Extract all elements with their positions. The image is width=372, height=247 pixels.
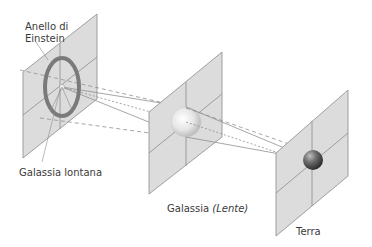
einstein-ring-label-line2: Einstein bbox=[25, 33, 68, 45]
lens-galaxy-label-text: Galassia bbox=[167, 203, 209, 214]
einstein-ring-label: Anello di Einstein bbox=[25, 21, 68, 45]
einstein-ring-label-line1: Anello di bbox=[25, 21, 68, 33]
earth-label: Terra bbox=[296, 226, 321, 238]
lens-galaxy-label-italic: (Lente) bbox=[212, 203, 248, 214]
lensing-diagram: Anello di Einstein Galassia lontana Gala… bbox=[0, 0, 372, 247]
lens-galaxy-label: Galassia (Lente) bbox=[167, 203, 248, 215]
distant-galaxy-label: Galassia lontana bbox=[19, 167, 102, 179]
earth-sphere bbox=[303, 150, 323, 170]
